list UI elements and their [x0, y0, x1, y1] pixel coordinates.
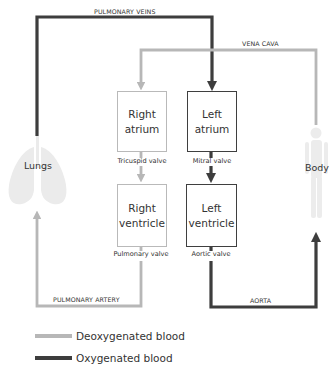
mitral-valve-label: Mitral valve — [193, 157, 232, 165]
oxygenated-swatch — [35, 356, 72, 360]
legend-label-oxygenated: Oxygenated blood — [76, 352, 173, 364]
deoxygenated-swatch — [35, 334, 72, 338]
left-atrium-box: Left atrium — [187, 91, 237, 152]
aorta-label: AORTA — [250, 297, 271, 304]
left-atrium-label-line2: atrium — [195, 122, 230, 137]
pulmonary-veins-label: PULMONARY VEINS — [94, 8, 156, 15]
right-ventricle-label-line1: Right — [128, 201, 156, 216]
body-label: Body — [305, 162, 329, 173]
left-ventricle-box: Left ventricle — [186, 184, 237, 247]
vena-cava-label: VENA CAVA — [242, 40, 279, 47]
circulation-diagram — [0, 0, 334, 373]
right-ventricle-label-line2: ventricle — [119, 216, 165, 231]
tricuspid-valve-label: Tricuspid valve — [118, 157, 167, 165]
right-atrium-label-line1: Right — [128, 107, 156, 122]
left-atrium-label-line1: Left — [202, 107, 222, 122]
right-ventricle-box: Right ventricle — [117, 184, 167, 247]
left-ventricle-label-line1: Left — [202, 201, 222, 216]
lungs-label: Lungs — [24, 160, 52, 171]
legend-item-oxygenated: Oxygenated blood — [35, 352, 173, 364]
pulmonary-valve-label: Pulmonary valve — [114, 250, 169, 258]
pulmonary-artery-label: PULMONARY ARTERY — [53, 296, 120, 303]
aortic-valve-label: Aortic valve — [191, 250, 230, 258]
right-atrium-box: Right atrium — [117, 91, 167, 152]
right-atrium-label-line2: atrium — [125, 122, 160, 137]
left-ventricle-label-line2: ventricle — [189, 216, 235, 231]
legend-item-deoxygenated: Deoxygenated blood — [35, 330, 185, 342]
legend-label-deoxygenated: Deoxygenated blood — [76, 330, 185, 342]
